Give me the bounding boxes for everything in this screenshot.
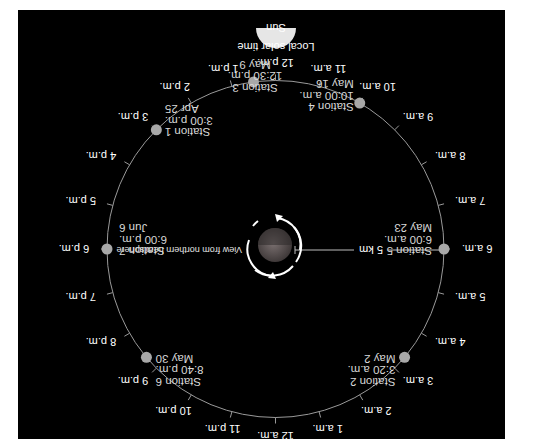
station-date: May 9 (239, 59, 270, 71)
station-date: Jun 6 (119, 222, 147, 234)
hour-label: 8 a.m. (435, 150, 466, 162)
hour-label: 11 a.m. (310, 63, 346, 75)
hour-label: 1 a.m. (312, 423, 343, 435)
station-date: Apr 25 (165, 103, 199, 115)
sun-label: Sun (266, 22, 286, 34)
station-name: Station 3 (232, 82, 277, 94)
hour-label: 5 a.m. (455, 291, 486, 303)
planet-icon (258, 228, 292, 262)
station-date: May 23 (394, 222, 432, 234)
station-name: Station 1 (165, 126, 210, 138)
station-name: Station 5 (387, 245, 432, 257)
station-name: Station 6 (156, 376, 201, 388)
station-name: Station 2 (350, 376, 395, 388)
station-name: Station 4 (308, 101, 354, 113)
hour-label: 11 p.m. (205, 423, 241, 435)
hour-label: 2 p.m. (159, 81, 190, 93)
station-time: 6:00 p.m. (119, 234, 167, 246)
hour-label: 9 a.m. (403, 111, 434, 123)
hour-label: 3 p.m. (118, 111, 149, 123)
station-time: 3:20 a.m. (347, 364, 395, 376)
station-dot (439, 244, 450, 255)
hour-label: 12 a.m. (257, 430, 294, 442)
station-time: 6:00 a.m. (384, 234, 432, 246)
hour-label: 7 p.m. (65, 291, 96, 303)
station-date: May 30 (156, 353, 194, 365)
station-dot (354, 98, 365, 109)
hour-label: 3 a.m. (403, 375, 434, 387)
hour-label: 6 a.m. (462, 243, 493, 255)
station-time: 10:00 a.m. (299, 90, 353, 102)
hour-label: 7 a.m. (455, 195, 486, 207)
hour-label: 10 p.m. (155, 405, 192, 417)
hour-label: 10 a.m. (359, 81, 396, 93)
hour-label: 6 p.m. (59, 243, 90, 255)
hour-label: 9 p.m. (118, 375, 149, 387)
hour-label: 5 p.m. (65, 195, 96, 207)
station-date: May 16 (316, 78, 354, 90)
hour-label: 2 a.m. (361, 405, 392, 417)
station-dot (102, 244, 113, 255)
station-dot (151, 124, 162, 135)
station-name: Station 7 (119, 245, 164, 257)
station-time: 3:00 p.m. (165, 115, 213, 127)
station-time: 12:30 p.m. (228, 70, 282, 82)
radius-label: 5 km (359, 244, 383, 256)
hour-label: 4 a.m. (435, 336, 466, 348)
station-dot (141, 352, 152, 363)
local-solar-time-caption: Local solar time (237, 41, 314, 53)
station-dot (399, 352, 410, 363)
station-date: May 2 (364, 353, 395, 365)
orbit-diagram: Sun Local solar time 12 a.m.1 a.m.2 a.m.… (0, 0, 553, 448)
hour-label: 4 p.m. (86, 150, 117, 162)
station-time: 8:40 p.m. (156, 364, 204, 376)
hour-label: 8 p.m. (86, 336, 117, 348)
